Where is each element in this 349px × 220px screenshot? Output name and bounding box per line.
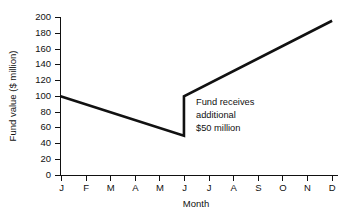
x-tick-label: N [304, 182, 311, 193]
chart-background [0, 0, 349, 220]
y-tick-label: 120 [35, 74, 51, 85]
x-tick-label: M [156, 182, 164, 193]
y-tick-label: 140 [35, 58, 51, 69]
y-axis-title: Fund value ($ million) [7, 51, 18, 142]
x-tick-label: O [279, 182, 286, 193]
x-tick-label: M [107, 182, 115, 193]
x-axis-title: Month [183, 198, 209, 209]
y-tick-label: 60 [40, 121, 51, 132]
x-tick-label: A [132, 182, 139, 193]
y-tick-label: 180 [35, 27, 51, 38]
x-tick-label: S [255, 182, 261, 193]
x-tick-label: J [207, 182, 212, 193]
y-tick-label: 40 [40, 137, 51, 148]
annotation-line-3: $50 million [196, 123, 240, 133]
x-tick-label: F [83, 182, 89, 193]
annotation-line-1: Fund receives [196, 97, 255, 107]
x-tick-label: A [231, 182, 238, 193]
chart-canvas: 200 180 160 140 120 100 80 60 40 20 0 [0, 0, 349, 220]
x-tick-label: J [59, 182, 64, 193]
y-tick-label: 100 [35, 90, 51, 101]
y-tick-label: 0 [46, 169, 51, 180]
x-tick-label: D [329, 182, 336, 193]
fund-value-line-chart: 200 180 160 140 120 100 80 60 40 20 0 [0, 0, 349, 220]
y-tick-label: 80 [40, 106, 51, 117]
y-tick-label: 160 [35, 43, 51, 54]
y-tick-label: 20 [40, 153, 51, 164]
y-tick-label: 200 [35, 11, 51, 22]
annotation-line-2: additional [196, 110, 236, 120]
x-tick-label: J [182, 182, 187, 193]
